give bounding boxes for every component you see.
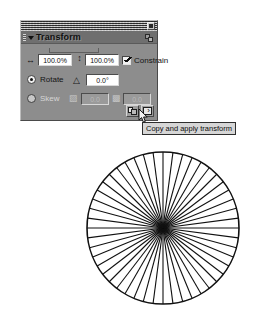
scale-row: ↔ 100.0% ↕ 100.0% Constrain: [21, 48, 157, 66]
skew-label: Skew: [40, 94, 60, 104]
skew-vertical-icon: ▩: [112, 93, 121, 103]
angle-icon: △: [73, 75, 80, 85]
horizontal-resize-icon: ↔: [25, 56, 36, 65]
radial-burst: [85, 150, 241, 306]
panel-title: Transform: [36, 32, 81, 43]
rotate-row: Rotate △ 0.0°: [21, 71, 157, 89]
screenshot-root: Transform ↔ 100.0% ↕ 100.0% Constrain Ro: [0, 0, 260, 317]
scale-height-input[interactable]: 100.0%: [85, 54, 119, 66]
skew-horizontal-input[interactable]: 0.0: [81, 93, 109, 105]
panel-grip-icon: [23, 34, 26, 41]
rotate-label: Rotate: [40, 75, 64, 85]
rotate-radio[interactable]: [27, 75, 36, 84]
scale-link-bracket: [49, 48, 99, 53]
rotate-angle-input[interactable]: 0.0°: [86, 74, 119, 86]
skew-horizontal-icon: ▨: [69, 93, 78, 103]
constrain-checkbox[interactable]: [122, 56, 131, 65]
skew-radio[interactable]: [27, 94, 36, 103]
panel-options-icon[interactable]: [145, 34, 153, 42]
panel-tab-row[interactable]: Transform: [21, 31, 157, 44]
tooltip: Copy and apply transform: [142, 122, 236, 135]
panel-titlebar[interactable]: [21, 21, 157, 31]
transform-panel[interactable]: Transform ↔ 100.0% ↕ 100.0% Constrain Ro: [20, 20, 158, 121]
triangle-down-icon[interactable]: [28, 36, 34, 40]
skew-vertical-input[interactable]: 0.0: [123, 93, 151, 105]
close-box-icon[interactable]: [147, 22, 155, 30]
arrow-pointer-icon: [138, 109, 149, 124]
scale-width-input[interactable]: 100.0%: [38, 54, 72, 66]
constrain-label: Constrain: [134, 56, 168, 66]
panel-body: ↔ 100.0% ↕ 100.0% Constrain Rotate △ 0.0…: [21, 44, 157, 120]
vertical-resize-icon: ↕: [76, 53, 83, 64]
